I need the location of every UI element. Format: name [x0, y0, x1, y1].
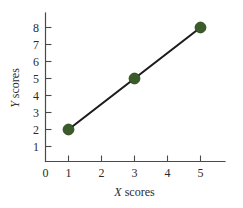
x-tick-label-0: 0	[43, 166, 49, 180]
data-point-1	[63, 124, 74, 135]
x-tick-label-3: 3	[132, 166, 138, 180]
y-axis-title-suffix: scores	[8, 68, 22, 101]
y-axis-title: Y scores	[8, 68, 22, 108]
scatter-line-chart: 1 2 3 4 5 6 7 8 0 1 2 3 4 5 X scores	[0, 0, 243, 208]
chart-canvas: 1 2 3 4 5 6 7 8 0 1 2 3 4 5 X scores	[0, 0, 243, 208]
x-tick-labels: 0 1 2 3 4 5	[43, 166, 204, 180]
x-tick-label-1: 1	[66, 166, 72, 180]
x-axis-ticks	[69, 156, 201, 162]
x-tick-label-5: 5	[198, 166, 204, 180]
y-tick-labels: 1 2 3 4 5 6 7 8	[33, 21, 39, 154]
y-tick-label-6: 6	[33, 55, 39, 69]
y-tick-label-8: 8	[33, 21, 39, 35]
x-tick-label-2: 2	[99, 166, 105, 180]
y-tick-label-2: 2	[33, 123, 39, 137]
y-axis-ticks	[46, 28, 52, 147]
data-point-2	[129, 73, 140, 84]
x-axis-title-suffix: scores	[122, 185, 155, 199]
y-tick-label-7: 7	[33, 38, 39, 52]
data-point-3	[195, 22, 206, 33]
y-tick-label-3: 3	[33, 106, 39, 120]
y-tick-label-5: 5	[33, 72, 39, 86]
y-tick-label-4: 4	[33, 89, 39, 103]
y-tick-label-1: 1	[33, 140, 39, 154]
x-axis-title: X scores	[113, 185, 155, 199]
x-tick-label-4: 4	[165, 166, 171, 180]
